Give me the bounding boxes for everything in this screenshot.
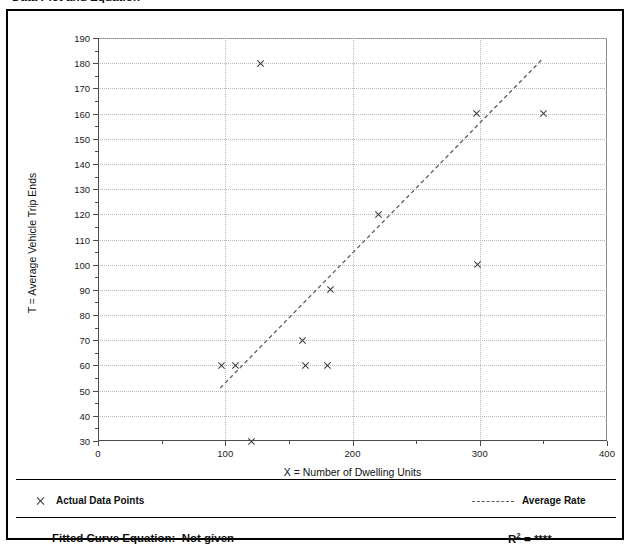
data-point [323, 361, 332, 370]
x-tick [225, 441, 226, 446]
x-tick-label: 400 [599, 448, 615, 459]
data-point [297, 336, 306, 345]
legend-divider-bottom [16, 517, 616, 518]
chart-panel: T = Average Vehicle Trip Ends X = Number… [6, 9, 624, 540]
r-squared-value: = **** [524, 533, 552, 545]
x-tick-minor [162, 441, 163, 444]
y-tick-label: 90 [79, 284, 90, 295]
y-tick-label: 30 [79, 436, 90, 447]
y-tick-label: 50 [79, 385, 90, 396]
plot-area: 3040506070809010011012013014015016017018… [98, 38, 607, 441]
y-tick-label: 80 [79, 310, 90, 321]
x-tick-minor [289, 441, 290, 444]
y-axis-line [98, 38, 99, 441]
y-tick-label: 180 [74, 58, 90, 69]
y-tick-label: 70 [79, 335, 90, 346]
x-tick [607, 441, 608, 446]
y-axis-title: T = Average Vehicle Trip Ends [26, 173, 38, 314]
x-axis-line [98, 440, 607, 441]
x-tick [480, 441, 481, 446]
y-tick-label: 100 [74, 259, 90, 270]
gridline-vertical [480, 38, 481, 441]
x-tick [353, 441, 354, 446]
data-point [301, 361, 310, 370]
y-tick-label: 170 [74, 83, 90, 94]
gridline-vertical [353, 38, 354, 441]
data-point [255, 59, 264, 68]
legend-divider-top [16, 479, 616, 480]
y-tick-label: 150 [74, 133, 90, 144]
data-point [325, 285, 334, 294]
x-marker-icon [35, 496, 45, 506]
data-point [473, 260, 482, 269]
gridline-vertical [225, 38, 226, 441]
x-axis-title: X = Number of Dwelling Units [98, 466, 607, 478]
x-tick-minor [543, 441, 544, 444]
y-tick-label: 120 [74, 209, 90, 220]
data-point [471, 109, 480, 118]
r-squared-exponent: 2 [516, 531, 520, 540]
page-title: Data Plot and Equation [12, 0, 140, 3]
x-tick-label: 100 [217, 448, 233, 459]
y-tick-label: 130 [74, 184, 90, 195]
data-point [231, 361, 240, 370]
y-tick-label: 60 [79, 360, 90, 371]
r-squared-annotation: R2 = **** [508, 531, 552, 545]
y-tick-label: 190 [74, 33, 90, 44]
data-point [373, 210, 382, 219]
data-point [246, 437, 255, 446]
y-tick-label: 40 [79, 410, 90, 421]
legend-label-average-rate: Average Rate [522, 495, 586, 506]
y-tick-label: 160 [74, 108, 90, 119]
data-point [539, 109, 548, 118]
x-tick-label: 200 [345, 448, 361, 459]
y-tick-label: 140 [74, 158, 90, 169]
equation-label: Fitted Curve Equation: [52, 532, 175, 544]
equation-value: Not given [182, 532, 234, 544]
dashed-line-icon [472, 501, 514, 502]
legend-label-actual-data-points: Actual Data Points [56, 495, 144, 506]
x-tick-minor [416, 441, 417, 444]
x-tick [98, 441, 99, 446]
data-point [217, 361, 226, 370]
x-tick-label: 300 [472, 448, 488, 459]
y-tick-label: 110 [75, 234, 90, 245]
x-tick-label: 0 [95, 448, 100, 459]
fitted-curve-equation: Fitted Curve Equation: Not given [52, 532, 234, 544]
